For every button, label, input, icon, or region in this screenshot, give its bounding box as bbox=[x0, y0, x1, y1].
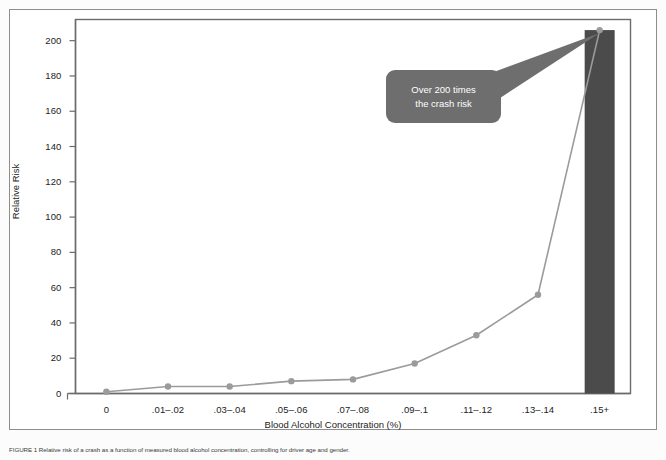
y-tick-label: 20 bbox=[32, 352, 62, 363]
y-tick-label: 180 bbox=[32, 70, 62, 81]
chart-panel bbox=[9, 9, 657, 430]
x-tick-label: .15+ bbox=[565, 404, 635, 415]
callout-line-2: the crash risk bbox=[386, 97, 501, 110]
x-tick-label: .13–.14 bbox=[503, 404, 573, 415]
y-axis-title: Relative Risk bbox=[10, 147, 21, 237]
x-tick-label: .01–.02 bbox=[133, 404, 203, 415]
x-tick-label: .03–.04 bbox=[195, 404, 265, 415]
y-tick-label: 200 bbox=[32, 35, 62, 46]
y-tick-label: 140 bbox=[32, 141, 62, 152]
figure-container: 020406080100120140160180200 0.01–.02.03–… bbox=[0, 0, 666, 460]
callout-line-1: Over 200 times bbox=[386, 83, 501, 96]
x-tick-label: 0 bbox=[71, 404, 141, 415]
x-tick-label: .09–.1 bbox=[380, 404, 450, 415]
y-tick-label: 0 bbox=[32, 388, 62, 399]
y-tick-label: 80 bbox=[32, 246, 62, 257]
y-tick-label: 40 bbox=[32, 317, 62, 328]
figure-caption: FIGURE 1 Relative risk of a crash as a f… bbox=[9, 446, 657, 458]
x-tick-label: .07–.08 bbox=[318, 404, 388, 415]
y-tick-label: 60 bbox=[32, 282, 62, 293]
y-tick-label: 160 bbox=[32, 105, 62, 116]
x-tick-label: .05–.06 bbox=[256, 404, 326, 415]
y-tick-label: 120 bbox=[32, 176, 62, 187]
x-tick-label: .11–.12 bbox=[441, 404, 511, 415]
x-axis-title: Blood Alcohol Concentration (%) bbox=[0, 419, 666, 430]
y-tick-label: 100 bbox=[32, 211, 62, 222]
